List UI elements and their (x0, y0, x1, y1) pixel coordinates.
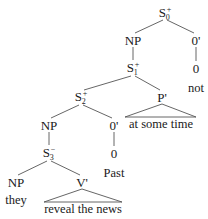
leaf-reveal-the-news: reveal the news (44, 203, 122, 216)
node-s0: S0+ (159, 3, 172, 24)
node-zero-1: 0 (193, 62, 200, 75)
node-s3: S3− (43, 143, 56, 164)
node-zero-bar-1: 0' (192, 34, 201, 47)
node-zero-2: 0 (111, 147, 118, 160)
leaf-they: they (5, 194, 27, 207)
node-v-bar: V' (76, 176, 88, 189)
node-np-3: NP (8, 176, 25, 189)
node-s1: S1+ (127, 58, 140, 79)
node-np-1: NP (125, 34, 142, 47)
node-s2: S2+ (75, 87, 88, 108)
tree-edges (0, 0, 208, 219)
node-p-bar: P' (157, 91, 167, 104)
node-zero-bar-2: 0' (110, 119, 119, 132)
leaf-at-some-time: at some time (129, 118, 193, 131)
node-np-2: NP (41, 119, 58, 132)
leaf-not: not (188, 82, 204, 95)
leaf-past: Past (104, 167, 125, 180)
